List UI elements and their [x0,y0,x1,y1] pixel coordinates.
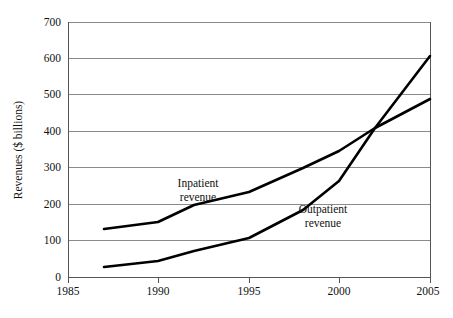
y-tick-label-600: 600 [44,52,62,64]
y-tick-label-400: 400 [44,125,62,137]
x-tick-marks [68,277,430,283]
x-tick-label-1995: 1995 [238,285,261,297]
annotation-outpatient-line2: revenue [305,217,341,229]
y-axis-title: Revenues ($ billions) [12,101,25,200]
y-tick-label-200: 200 [44,198,62,210]
x-tick-label-2000: 2000 [328,285,351,297]
y-tick-label-100: 100 [44,234,62,246]
chart-canvas: 700 600 500 400 300 200 100 0 1985 1990 … [0,0,453,318]
y-tick-labels: 700 600 500 400 300 200 100 0 [44,16,62,283]
x-tick-label-1990: 1990 [147,285,170,297]
annotation-outpatient-line1: Outpatient [299,203,348,216]
y-tick-label-300: 300 [44,161,62,173]
x-tick-label-1985: 1985 [57,285,80,297]
annotation-inpatient-line1: Inpatient [178,177,220,190]
x-tick-labels: 1985 1990 1995 2000 2005 [57,285,440,297]
x-tick-label-2005: 2005 [417,285,440,297]
y-tick-label-700: 700 [44,16,62,28]
y-tick-label-500: 500 [44,88,62,100]
revenue-line-chart: 700 600 500 400 300 200 100 0 1985 1990 … [0,0,453,318]
annotation-inpatient-line2: revenue [180,191,216,203]
y-tick-label-0: 0 [55,271,61,283]
